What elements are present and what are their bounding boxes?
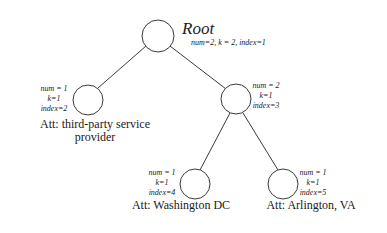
node5-k: k=1 (295, 178, 331, 188)
node2-attribute-line2: provider (20, 131, 170, 144)
edge-node3-node5 (243, 113, 278, 170)
node3-num: num = 2 (248, 81, 284, 91)
node5-attribute: Att: Arlington, VA (255, 199, 367, 212)
node5-num: num = 1 (295, 168, 331, 178)
node2-k: k=1 (36, 94, 72, 104)
node-3 (221, 84, 251, 114)
root-meta: num=2, k = 2, index=1 (191, 38, 266, 48)
root-title: Root (182, 19, 214, 39)
node3-meta: num = 2 k=1 index=3 (248, 81, 284, 111)
node-2 (73, 85, 103, 115)
node4-attribute: Att: Washington DC (118, 199, 244, 212)
node4-meta: num = 1 k=1 index=4 (144, 168, 180, 198)
node-4 (180, 169, 210, 199)
node2-attribute: Att: third-party service provider (20, 118, 170, 144)
node4-num: num = 1 (144, 168, 180, 178)
node-root (142, 20, 174, 52)
node4-k: k=1 (144, 178, 180, 188)
node2-index: index=2 (36, 104, 72, 114)
edge-root-node2 (98, 46, 146, 88)
node2-num: num = 1 (36, 84, 72, 94)
edge-root-node3 (170, 46, 226, 89)
node3-k: k=1 (248, 91, 284, 101)
node-5 (268, 169, 298, 199)
node4-index: index=4 (144, 188, 180, 198)
node2-meta: num = 1 k=1 index=2 (36, 84, 72, 114)
node5-index: index=5 (295, 188, 331, 198)
node5-meta: num = 1 k=1 index=5 (295, 168, 331, 198)
edge-node3-node4 (200, 113, 230, 170)
node3-index: index=3 (248, 101, 284, 111)
